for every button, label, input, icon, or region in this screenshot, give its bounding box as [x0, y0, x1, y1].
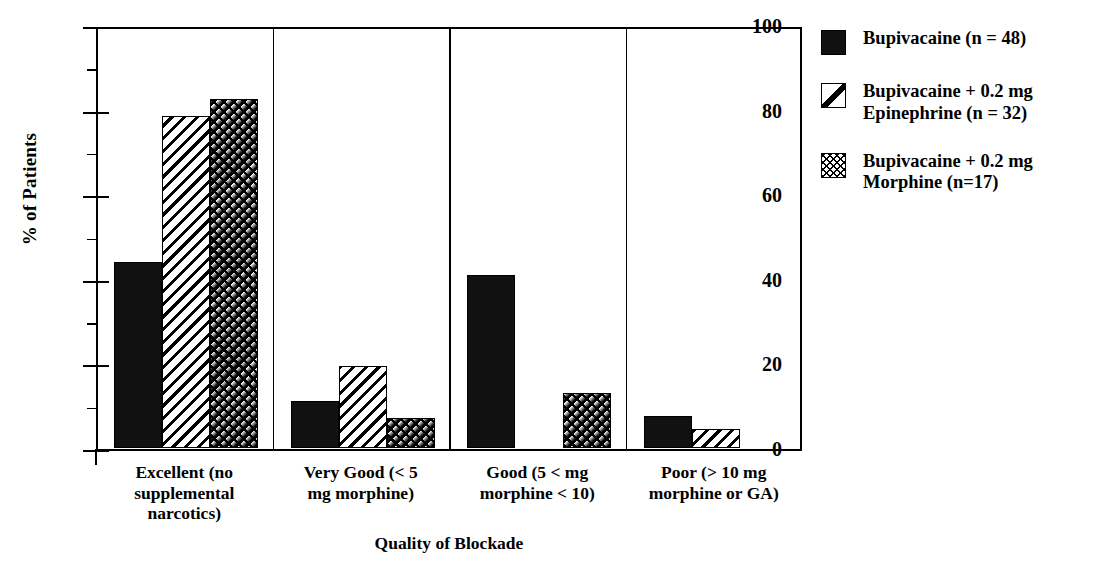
category-label-line: morphine < 10) — [449, 483, 626, 504]
y-tick-minor — [87, 69, 97, 71]
x-axis-title: Quality of Blockade — [96, 533, 802, 554]
bar — [162, 116, 210, 448]
category-label-line: morphine or GA) — [626, 483, 803, 504]
y-tick-major — [83, 365, 109, 367]
legend-label: Bupivacaine (n = 48) — [863, 28, 1026, 50]
bar — [210, 99, 258, 448]
legend-swatch-hatch-icon — [821, 83, 846, 108]
y-tick-label: 100 — [722, 16, 782, 36]
category-label-line: Good (5 < mg — [449, 462, 626, 483]
y-tick-major — [83, 196, 109, 198]
panel-divider — [449, 27, 451, 451]
y-tick-label: 60 — [722, 185, 782, 205]
x-axis-category-label: Good (5 < mgmorphine < 10) — [449, 462, 626, 503]
category-label-line: narcotics) — [96, 503, 273, 524]
legend-item[interactable]: Bupivacaine + 0.2 mg Morphine (n=17) — [821, 151, 1093, 195]
y-tick-major — [83, 112, 109, 114]
bar — [644, 416, 692, 448]
y-axis-title: % of Patients — [19, 99, 41, 279]
legend-label: Bupivacaine + 0.2 mg Morphine (n=17) — [863, 151, 1033, 195]
category-label-line: supplemental — [96, 483, 273, 504]
bar — [563, 393, 611, 448]
x-axis-category-label: Excellent (nosupplementalnarcotics) — [96, 462, 273, 524]
chart-legend: Bupivacaine (n = 48)Bupivacaine + 0.2 mg… — [821, 28, 1093, 220]
y-tick-major — [83, 281, 109, 283]
y-tick-minor — [87, 239, 97, 241]
y-tick-minor — [87, 408, 97, 410]
y-tick-minor — [87, 154, 97, 156]
legend-item[interactable]: Bupivacaine + 0.2 mg Epinephrine (n = 32… — [821, 81, 1093, 125]
bar — [692, 429, 740, 448]
category-label-line: Very Good (< 5 — [273, 462, 450, 483]
bar — [339, 366, 387, 448]
bar-chart-figure: % of Patients 100806040200 Excellent (no… — [0, 0, 1099, 583]
panel-divider — [626, 27, 628, 451]
y-tick-minor — [87, 323, 97, 325]
y-tick-label: 20 — [722, 354, 782, 374]
y-tick-label: 80 — [722, 101, 782, 121]
plot-frame-right — [800, 27, 802, 451]
bar — [291, 401, 339, 448]
legend-label: Bupivacaine + 0.2 mg Epinephrine (n = 32… — [863, 81, 1033, 125]
plot-area: 100806040200 — [96, 27, 802, 450]
category-label-line: Excellent (no — [96, 462, 273, 483]
legend-swatch-cross-icon — [821, 153, 846, 178]
y-tick-label: 40 — [722, 270, 782, 290]
category-label-line: Poor (> 10 mg — [626, 462, 803, 483]
y-tick-major — [83, 27, 109, 29]
bar — [467, 275, 515, 448]
x-axis-category-label: Poor (> 10 mgmorphine or GA) — [626, 462, 803, 503]
bar — [387, 418, 435, 448]
bar — [114, 262, 162, 448]
x-axis-category-label: Very Good (< 5mg morphine) — [273, 462, 450, 503]
panel-divider — [273, 27, 275, 451]
legend-swatch-solid-icon — [821, 30, 846, 55]
category-label-line: mg morphine) — [273, 483, 450, 504]
legend-item[interactable]: Bupivacaine (n = 48) — [821, 28, 1093, 55]
y-tick-major — [83, 450, 109, 452]
